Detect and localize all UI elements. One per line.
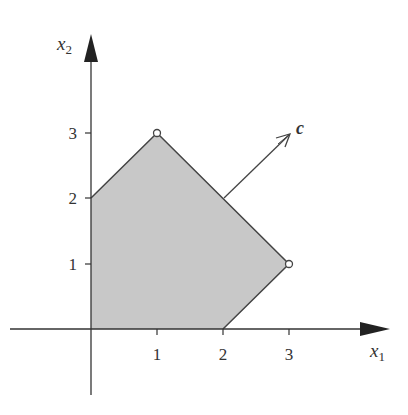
vertex-marker-3-1: [286, 261, 293, 268]
x-tick-label-2: 2: [219, 345, 228, 364]
y-tick-label-1: 1: [69, 255, 78, 274]
x1-axis-arrowhead-icon: [360, 322, 390, 336]
x-tick-label-1: 1: [153, 345, 162, 364]
x1-axis-label: x1: [369, 340, 385, 364]
lp-diagram: 1 2 3 1 2 3 x1 x2 c: [0, 0, 408, 415]
y-tick-label-3: 3: [69, 124, 78, 143]
vertex-marker-1-3: [154, 130, 161, 137]
vector-c-label: c: [296, 118, 304, 138]
vector-c: [224, 135, 289, 198]
x2-axis-arrowhead-icon: [84, 34, 98, 62]
y-tick-label-2: 2: [69, 189, 78, 208]
x-tick-label-3: 3: [285, 345, 294, 364]
feasible-region: [91, 133, 289, 329]
x2-axis-label: x2: [56, 33, 72, 57]
